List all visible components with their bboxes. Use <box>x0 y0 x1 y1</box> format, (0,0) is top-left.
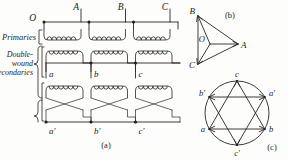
primary-winding-1 <box>44 29 81 40</box>
node-hex-b <box>264 128 266 130</box>
label-vector-b: B <box>190 6 196 16</box>
node-hex-b-prime <box>208 96 210 98</box>
hexagram-circle <box>205 81 269 145</box>
figure-svg: O A B C Primaries Double- wound secondar… <box>0 0 288 160</box>
label-hex-c-prime: c′ <box>234 148 240 158</box>
node-hex-c-prime <box>236 144 238 146</box>
node-primary-c <box>132 21 135 24</box>
label-vector-c: C <box>189 60 196 70</box>
caption-panel-b: (b) <box>225 10 235 20</box>
node-a-prime <box>44 120 47 123</box>
node-b-prime <box>89 120 92 123</box>
label-secondaries-line3: secondaries <box>0 68 33 77</box>
label-hex-b-prime: b′ <box>199 88 205 98</box>
label-secondaries-line1: Double- <box>6 50 34 59</box>
label-secondary-a-prime: a′ <box>49 126 57 136</box>
secondary-winding-lower-2 <box>91 86 136 122</box>
caption-panel-c: (c) <box>267 142 277 152</box>
label-vector-a: A <box>240 40 247 50</box>
label-secondary-c: c <box>139 69 143 79</box>
node-primary-b <box>88 21 91 24</box>
primary-bus <box>43 9 179 29</box>
node-o <box>43 21 46 24</box>
label-terminal-b: B <box>118 2 124 12</box>
label-hex-a: a <box>201 124 205 134</box>
label-terminal-c: C <box>162 2 169 12</box>
node-c-prime <box>134 120 137 123</box>
primaries-bracket <box>39 30 42 44</box>
label-secondary-b: b <box>94 69 99 79</box>
secondary-group-bracket-lower <box>42 83 44 121</box>
secondary-lower-bus <box>44 120 180 123</box>
label-primaries: Primaries <box>1 32 37 42</box>
label-secondary-a: a <box>49 69 54 79</box>
figure-canvas: O A B C Primaries Double- wound secondar… <box>0 0 288 160</box>
node-hex-c <box>236 80 238 82</box>
label-hex-c: c <box>235 69 239 79</box>
secondary-winding-lower-1 <box>46 86 91 122</box>
secondary-upper-tails <box>46 63 136 78</box>
node-hex-a-prime <box>264 96 266 98</box>
primary-winding-2 <box>89 29 126 40</box>
node-hex-a <box>208 128 210 130</box>
label-secondary-b-prime: b′ <box>94 126 102 136</box>
label-secondary-c-prime: c′ <box>139 126 146 136</box>
label-hex-a-prime: a′ <box>269 88 275 98</box>
secondary-group-bracket-upper <box>42 47 44 77</box>
caption-panel-a: (a) <box>101 140 111 150</box>
secondary-upper-bus <box>46 62 180 65</box>
primary-winding-3 <box>134 29 171 40</box>
label-terminal-a: A <box>72 2 79 12</box>
label-vector-origin: O <box>199 34 205 44</box>
label-hex-b: b <box>269 124 273 134</box>
secondary-winding-lower-3 <box>136 86 181 122</box>
secondaries-brace <box>34 46 42 122</box>
label-star-point-o: O <box>29 13 36 23</box>
label-secondaries-line2: wound <box>12 59 34 68</box>
panel-c-hexagram <box>205 80 269 146</box>
